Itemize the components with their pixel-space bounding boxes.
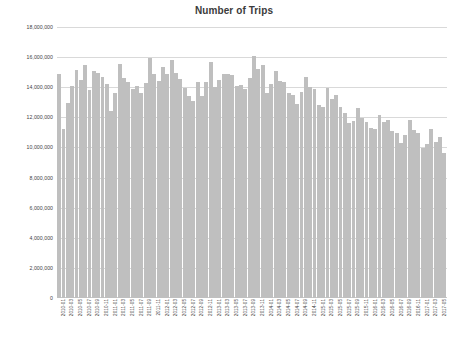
bar (295, 104, 299, 298)
y-axis-tick-label: 12,000,000 (0, 114, 53, 120)
bar (239, 85, 243, 298)
bar (144, 83, 148, 298)
bar (235, 86, 239, 298)
bar (126, 82, 130, 298)
bar (416, 133, 420, 298)
bar (135, 86, 139, 298)
bar (352, 121, 356, 298)
x-axis-tick-label: 2014-11 (312, 299, 317, 316)
bar (66, 103, 70, 298)
bar (83, 65, 87, 298)
bar (122, 78, 126, 298)
x-axis-tick-label: 2014-05 (286, 299, 291, 316)
chart-title: Number of Trips (0, 5, 468, 16)
x-axis-tick-label: 2016-07 (399, 299, 404, 316)
bar (395, 133, 399, 298)
chart-container: Number of Trips 18,000,00016,000,00014,0… (0, 0, 468, 342)
bar (79, 80, 83, 298)
bar (442, 153, 446, 298)
bar (304, 77, 308, 298)
x-axis-tick-label: 2015-07 (347, 299, 352, 316)
bar (269, 84, 273, 298)
bar (209, 62, 213, 298)
x-axis-tick-label: 2017-03 (433, 299, 438, 316)
x-axis-tick-label: 2016-11 (416, 299, 421, 316)
bar (399, 143, 403, 298)
bar (300, 92, 304, 298)
bar (265, 93, 269, 298)
x-axis-tick-label: 2011-07 (139, 299, 144, 316)
bar (105, 84, 109, 298)
y-axis-tick-label: 2,000,000 (0, 265, 53, 271)
x-axis-tick-label: 2013-05 (234, 299, 239, 316)
bar (326, 88, 330, 298)
bar (356, 108, 360, 298)
x-axis-tick-label: 2012-01 (165, 299, 170, 316)
bar (274, 71, 278, 298)
bar (213, 87, 217, 298)
bar (287, 93, 291, 299)
bar (131, 89, 135, 298)
bar (226, 74, 230, 298)
x-axis-tick-label: 2013-11 (260, 299, 265, 316)
bar (278, 81, 282, 298)
bar (161, 67, 165, 298)
bar (365, 122, 369, 298)
x-axis-tick-label: 2017-05 (442, 299, 447, 316)
x-axis-tick-label: 2011-11 (156, 299, 161, 316)
bar (330, 99, 334, 298)
bar-series (57, 27, 447, 298)
x-axis-tick-label: 2014-03 (277, 299, 282, 316)
x-axis-tick-label: 2011-05 (130, 299, 135, 316)
bar (282, 82, 286, 298)
x-axis-tick-label: 2011-03 (121, 299, 126, 316)
bar (291, 95, 295, 298)
bar (408, 120, 412, 298)
x-axis-tick-label: 2015-03 (329, 299, 334, 316)
bar (252, 56, 256, 298)
bar (425, 144, 429, 298)
plot-area (57, 27, 447, 298)
bar (373, 129, 377, 298)
bar (334, 95, 338, 298)
x-axis-tick-label: 2014-07 (295, 299, 300, 316)
bar (148, 58, 152, 298)
x-axis-tick-label: 2013-01 (217, 299, 222, 316)
bar (369, 128, 373, 298)
x-axis-tick-label: 2012-03 (173, 299, 178, 316)
x-axis-tick-label: 2017-01 (425, 299, 430, 316)
bar (109, 111, 113, 298)
x-axis-tick-label: 2016-09 (407, 299, 412, 316)
bar (113, 93, 117, 299)
x-axis-tick-label: 2015-09 (355, 299, 360, 316)
x-axis-tick-label: 2010-05 (78, 299, 83, 316)
bar (248, 78, 252, 298)
y-axis-tick-label: 0 (0, 295, 53, 301)
bar (313, 89, 317, 298)
bar (118, 64, 122, 298)
bar (243, 89, 247, 298)
bar (382, 122, 386, 298)
bar (178, 79, 182, 298)
y-axis-tick-label: 6,000,000 (0, 205, 53, 211)
bar (390, 131, 394, 298)
x-axis-tick-label: 2010-07 (87, 299, 92, 316)
bar (139, 93, 143, 299)
x-axis-tick-label: 2015-01 (321, 299, 326, 316)
bar (412, 130, 416, 298)
bar (200, 96, 204, 298)
x-axis-tick-label: 2010-11 (104, 299, 109, 316)
bar (321, 107, 325, 298)
bar (434, 142, 438, 298)
bar (157, 81, 161, 298)
bar (347, 123, 351, 298)
bar (308, 87, 312, 298)
x-axis: 2010-012010-032010-052010-072010-092010-… (57, 299, 447, 342)
bar (429, 129, 433, 298)
bar (88, 90, 92, 298)
bar (57, 74, 61, 298)
bar (317, 105, 321, 298)
bar (222, 74, 226, 298)
bar (256, 69, 260, 298)
bar (386, 120, 390, 298)
